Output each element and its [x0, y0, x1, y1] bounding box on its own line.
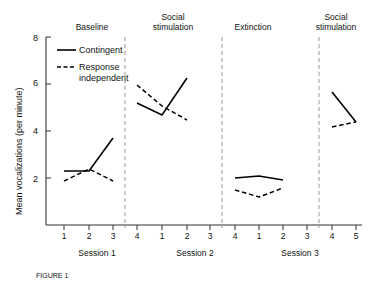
figure-panel: Mean vocalizations (per minute) 8 6 4 2 … [0, 0, 388, 284]
axis-lines [46, 37, 362, 225]
series-contingent-segment-social-1 [137, 78, 187, 115]
chart-svg [0, 0, 388, 284]
series-contingent [64, 78, 356, 180]
x-axis-ticks [64, 225, 356, 230]
series-contingent-segment-social-2 [332, 92, 356, 122]
series-contingent-segment-extinction [235, 176, 283, 180]
series-contingent-segment-baseline [64, 138, 113, 171]
series-response-independent [64, 85, 356, 197]
phase-divider-lines [125, 37, 319, 228]
series-response-independent-segment-social-2 [332, 122, 356, 127]
series-response-independent-segment-extinction [235, 188, 283, 197]
